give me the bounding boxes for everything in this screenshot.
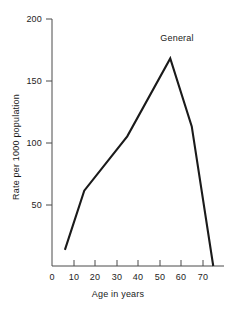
x-tick-label-40: 40 bbox=[133, 272, 143, 282]
x-axis-title: Age in years bbox=[0, 289, 236, 299]
axis-lines bbox=[52, 19, 224, 266]
x-tick-label-0: 0 bbox=[49, 272, 54, 282]
plot-area bbox=[0, 0, 236, 309]
x-tick-label-20: 20 bbox=[90, 272, 100, 282]
y-tick-label-200: 200 bbox=[16, 14, 42, 24]
x-tick-label-60: 60 bbox=[176, 272, 186, 282]
y-axis-title: Rate per 1000 population bbox=[11, 72, 21, 222]
x-tick-label-50: 50 bbox=[155, 272, 165, 282]
y-axis-ticks bbox=[46, 19, 52, 205]
x-tick-label-10: 10 bbox=[69, 272, 79, 282]
x-axis-ticks bbox=[74, 260, 203, 266]
line-chart: 200 150 100 50 0 10 20 30 40 50 60 70 Ag… bbox=[0, 0, 236, 309]
x-tick-label-70: 70 bbox=[198, 272, 208, 282]
data-line-general bbox=[65, 59, 213, 266]
x-tick-label-30: 30 bbox=[112, 272, 122, 282]
series-label-general: General bbox=[160, 33, 193, 43]
